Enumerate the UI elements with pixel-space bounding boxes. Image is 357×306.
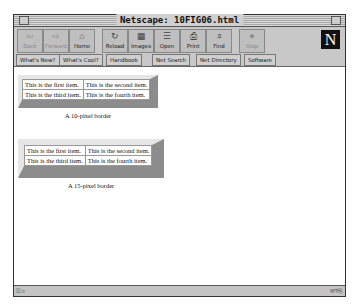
netscape-logo: N <box>321 30 340 49</box>
forward-arrow-icon: ⇨ <box>44 30 68 42</box>
page-content: This is the first item. This is the seco… <box>14 67 345 286</box>
table-caption: A 15-pixel border <box>18 182 164 189</box>
table-demo-10px: This is the first item. This is the seco… <box>18 75 158 119</box>
table-cell: This is the first item. <box>23 80 84 90</box>
print-button[interactable]: ⎙Print <box>180 29 206 53</box>
software-button[interactable]: Software <box>244 54 276 66</box>
binoculars-icon: ⌕ <box>207 30 231 42</box>
images-button[interactable]: ▦Images <box>128 29 154 53</box>
sample-table: This is the first item. This is the seco… <box>22 79 150 100</box>
directory-bar: What's New? What's Cool? Handbook Net Se… <box>14 53 345 67</box>
window-title: Netscape: 10FIG06.html <box>116 14 243 26</box>
stop-button[interactable]: ●Stop <box>239 29 265 53</box>
net-directory-button[interactable]: Net Directory <box>196 54 241 66</box>
stop-icon: ● <box>240 30 264 42</box>
back-arrow-icon: ⇦ <box>18 30 42 42</box>
sample-table: This is the first item. This is the seco… <box>24 145 152 166</box>
table-row: This is the first item. This is the seco… <box>23 80 150 90</box>
table-cell: This is the second item. <box>83 80 150 90</box>
whats-new-button[interactable]: What's New? <box>16 54 60 66</box>
mail-icon[interactable]: ✉?⎘ <box>330 287 343 295</box>
security-key-icon[interactable]: ⚿✉ <box>16 287 25 295</box>
status-bar: ⚿✉ ✉?⎘ <box>14 286 345 296</box>
close-box[interactable] <box>19 16 29 25</box>
back-button[interactable]: ⇦Back <box>17 29 43 53</box>
browser-window: Netscape: 10FIG06.html ⇦Back ⇨Forward ⌂H… <box>13 14 346 297</box>
table-cell: This is the first item. <box>25 146 86 156</box>
open-button[interactable]: ☰Open <box>154 29 180 53</box>
table-cell: This is the fourth item. <box>83 90 150 100</box>
printer-icon: ⎙ <box>181 30 205 42</box>
home-button[interactable]: ⌂Home <box>69 29 95 53</box>
home-icon: ⌂ <box>70 30 94 42</box>
forward-button[interactable]: ⇨Forward <box>43 29 69 53</box>
table-border-frame: This is the first item. This is the seco… <box>18 139 164 178</box>
table-cell: This is the third item. <box>23 90 84 100</box>
images-icon: ▦ <box>129 30 153 42</box>
table-cell: This is the second item. <box>85 146 152 156</box>
net-search-button[interactable]: Net Search <box>152 54 190 66</box>
title-bar[interactable]: Netscape: 10FIG06.html <box>14 15 345 27</box>
open-icon: ☰ <box>155 30 179 42</box>
table-row: This is the first item. This is the seco… <box>25 146 152 156</box>
whats-cool-button[interactable]: What's Cool? <box>59 54 103 66</box>
table-row: This is the third item. This is the four… <box>25 156 152 166</box>
table-demo-15px: This is the first item. This is the seco… <box>18 139 164 189</box>
table-cell: This is the fourth item. <box>85 156 152 166</box>
reload-icon: ↻ <box>103 30 127 42</box>
zoom-box[interactable] <box>331 16 341 25</box>
table-cell: This is the third item. <box>25 156 86 166</box>
navigation-toolbar: ⇦Back ⇨Forward ⌂Home ↻Reload ▦Images ☰Op… <box>14 27 345 53</box>
handbook-button[interactable]: Handbook <box>106 54 142 66</box>
find-button[interactable]: ⌕Find <box>206 29 232 53</box>
table-row: This is the third item. This is the four… <box>23 90 150 100</box>
reload-button[interactable]: ↻Reload <box>102 29 128 53</box>
table-caption: A 10-pixel border <box>18 112 158 119</box>
table-border-frame: This is the first item. This is the seco… <box>18 75 158 108</box>
